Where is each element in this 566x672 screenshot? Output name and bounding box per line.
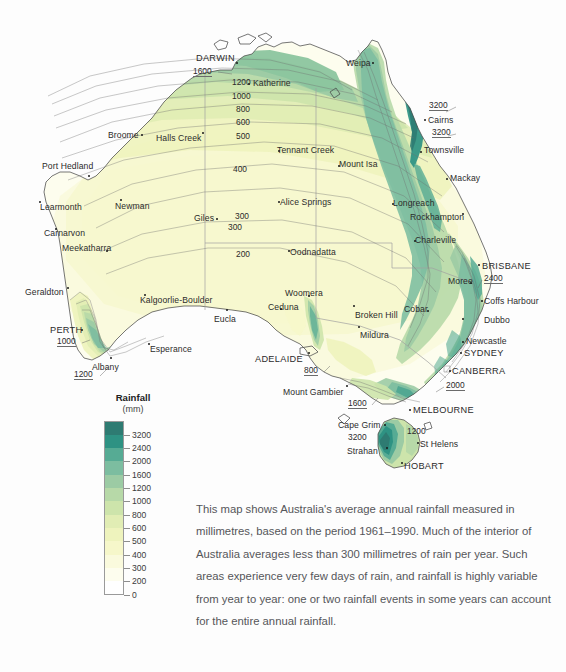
city-label: Giles [194,214,214,223]
legend-color-swatch [104,475,124,488]
city-label: Mount Isa [339,160,378,169]
legend-row: 1000 [104,488,194,501]
city-label: MELBOURNE [413,406,474,415]
city-label: Newcastle [466,337,507,346]
rainfall-map-page: DARWINKatherineWeipaCairnsTownsvilleMack… [0,0,566,672]
legend-row: 0 [104,581,194,594]
city-label: Esperance [150,345,192,354]
legend-color-swatch [104,528,124,541]
legend-row: 600 [104,515,194,528]
city-label: HOBART [404,462,444,471]
city-label: DARWIN [196,54,235,63]
legend-color-swatch [104,568,124,581]
contour-value-label: 1200 [232,78,251,86]
legend-row: 500 [104,528,194,541]
city-label: Cairns [428,116,453,125]
contour-value-label: 1200 [407,427,426,435]
city-label: Rockhampton [410,213,464,222]
city-label: Broken Hill [355,311,398,320]
city-label: Woomera [285,289,323,298]
city-label: Albany [92,363,119,372]
city-label: Katherine [253,79,291,88]
legend-row: 2400 [104,435,194,448]
contour-value-label: 200 [236,250,250,258]
city-label: Geraldton [25,288,64,297]
contour-value-label: 3200 [432,128,451,138]
contour-value-label: 2400 [484,274,503,284]
city-label: Dubbo [484,316,510,325]
city-label: Oodnadatta [290,248,336,257]
contour-value-label: 800 [236,105,250,113]
contour-value-label: 1200 [74,370,93,380]
city-label: Mackay [450,174,480,183]
legend-color-swatch [104,488,124,501]
legend-tick-mark [124,595,130,596]
legend-color-swatch [104,515,124,528]
city-label: Longreach [393,199,435,208]
city-label: Port Hedland [42,162,93,171]
contour-value-label: 1000 [57,337,76,347]
city-label: Weipa [346,59,371,68]
city-label: Broome [108,131,139,140]
city-label: Learmonth [40,203,82,212]
contour-value-label: 300 [235,212,249,220]
legend-color-swatch [104,435,124,448]
city-label: Newman [115,202,150,211]
city-label: Mount Gambier [283,388,344,397]
legend-color-swatch [104,501,124,514]
city-label: ADELAIDE [255,355,303,364]
contour-value-label: 3200 [348,433,367,441]
contour-value-label: 600 [236,118,250,126]
legend-row: 300 [104,555,194,568]
contour-value-label: 400 [233,165,247,173]
city-label: Carnarvon [44,229,85,238]
city-label: Eucla [214,315,236,324]
legend-unit: (mm) [104,404,162,415]
legend-color-swatch [104,581,124,594]
legend-row: 1600 [104,461,194,474]
contour-value-label: 500 [236,132,250,140]
contour-value-label: 1000 [232,92,251,100]
legend-color-swatch [104,421,124,434]
legend-color-swatch [104,555,124,568]
legend-row: 800 [104,501,194,514]
legend-row: 200 [104,568,194,581]
city-label: PERTH [50,326,82,335]
legend-row: 2000 [104,448,194,461]
city-label: Strahan [347,447,378,456]
legend-color-swatch [104,541,124,554]
city-label: BRISBANE [482,262,531,271]
city-label: Townsville [424,146,464,155]
city-label: Ceduna [268,303,299,312]
map-description: This map shows Australia's average annua… [196,498,552,632]
legend-value-label: 0 [132,590,137,599]
city-label: Charleville [415,236,456,245]
legend-color-swatch [104,448,124,461]
legend-colorbar: 3200240020001600120010008006005004003002… [104,421,194,594]
city-label: Kalgoorlie-Boulder [140,296,213,305]
city-label: Halls Creek [156,134,202,143]
city-label: Mildura [360,331,389,340]
legend-row: 400 [104,541,194,554]
city-label: Cobar [404,305,428,314]
city-label: Tennant Creek [277,146,334,155]
city-label: Cape Grim [338,421,380,430]
city-label: Meekatharra [62,244,111,253]
contour-value-label: 300 [228,223,242,231]
contour-value-label: 2000 [446,381,465,391]
rainfall-legend: Rainfall (mm) 32002400200016001200100080… [104,392,194,595]
city-label: St Helens [420,440,458,449]
city-label: Alice Springs [280,198,331,207]
city-label: Moree [448,277,473,286]
description-paragraph: This map shows Australia's average annua… [196,498,552,632]
city-label: SYDNEY [464,349,504,358]
contour-value-label: 1600 [348,399,367,409]
legend-row: 1200 [104,475,194,488]
legend-row: 3200 [104,421,194,434]
city-label: Coffs Harbour [484,297,539,306]
legend-title: Rainfall [104,392,162,404]
australia-rainfall-map: DARWINKatherineWeipaCairnsTownsvilleMack… [0,0,566,490]
contour-value-label: 3200 [429,101,448,111]
city-label: CANBERRA [452,367,505,376]
contour-value-label: 1600 [193,67,212,77]
